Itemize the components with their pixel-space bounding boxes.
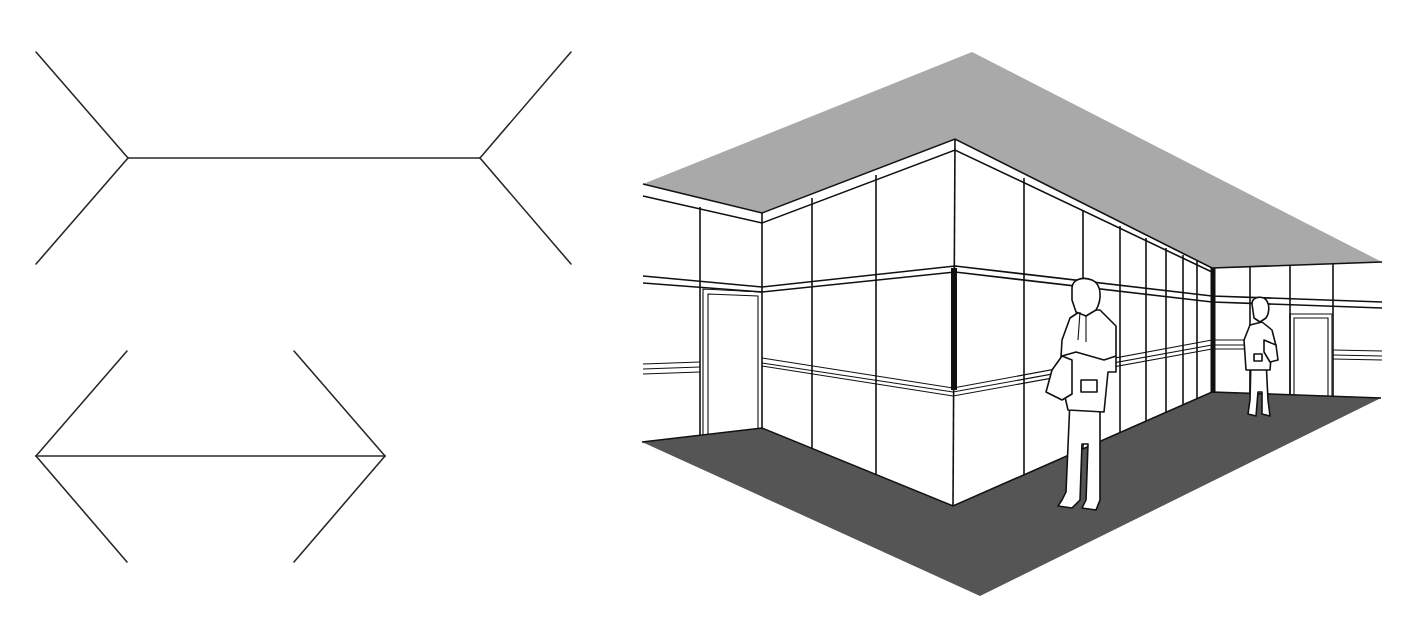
muller-lyer-fins-out — [36, 52, 571, 264]
room-perspective-scene — [642, 52, 1382, 596]
muller-lyer-fins-in — [36, 351, 385, 562]
illusion-canvas — [0, 0, 1408, 617]
